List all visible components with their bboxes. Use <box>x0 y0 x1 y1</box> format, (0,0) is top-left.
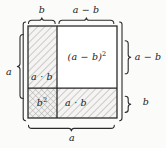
bracket-right-outer <box>120 22 122 121</box>
brace-left-a <box>17 35 23 99</box>
brace-top-b <box>29 18 56 24</box>
label-right-a-minus-b: a − b <box>135 52 162 62</box>
cell-b-squared-exponent: 2 <box>43 96 47 104</box>
brace-bottom-a <box>29 125 115 131</box>
label-top-b: b <box>39 5 45 15</box>
label-right-b: b <box>143 97 149 107</box>
figure-square-decomposition: b a − b a a − b b a a · b (a − b)2 b2 a … <box>0 0 166 148</box>
label-left-a: a <box>6 67 12 77</box>
cell-a-minus-b-squared-base: (a − b) <box>68 51 103 62</box>
brace-right-b <box>125 96 131 112</box>
cell-a-minus-b-squared-label: (a − b)2 <box>68 52 107 62</box>
brace-top-a-minus-b <box>59 18 114 24</box>
label-top-a-minus-b: a − b <box>73 5 100 15</box>
cell-ab-bottom-label: a · b <box>65 98 87 108</box>
cell-a-minus-b-squared-exponent: 2 <box>102 50 106 58</box>
brace-right-a-minus-b <box>125 41 131 74</box>
label-bottom-a: a <box>69 133 75 143</box>
figure-canvas <box>0 0 166 148</box>
cell-b-squared-label: b2 <box>37 98 48 108</box>
bracket-left-outer <box>23 22 25 121</box>
cell-ab-left-label: a · b <box>31 72 53 82</box>
